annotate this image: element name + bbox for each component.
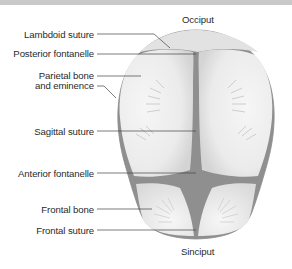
occipital-bone	[140, 30, 258, 52]
label-frontal-suture: Frontal suture	[36, 225, 94, 236]
label-anterior-fontanelle: Anterior fontanelle	[18, 168, 94, 179]
right-parietal-bone	[199, 50, 273, 177]
label-parietal-eminence: and eminence	[35, 80, 94, 91]
label-sinciput: Sinciput	[181, 246, 214, 257]
label-lambdoid-suture: Lambdoid suture	[24, 29, 94, 40]
label-frontal-bone: Frontal bone	[41, 204, 94, 215]
label-occiput: Occiput	[182, 14, 214, 25]
label-sagittal-suture: Sagittal suture	[34, 126, 94, 137]
label-posterior-fontanelle: Posterior fontanelle	[13, 48, 94, 59]
left-parietal-bone	[120, 50, 194, 177]
